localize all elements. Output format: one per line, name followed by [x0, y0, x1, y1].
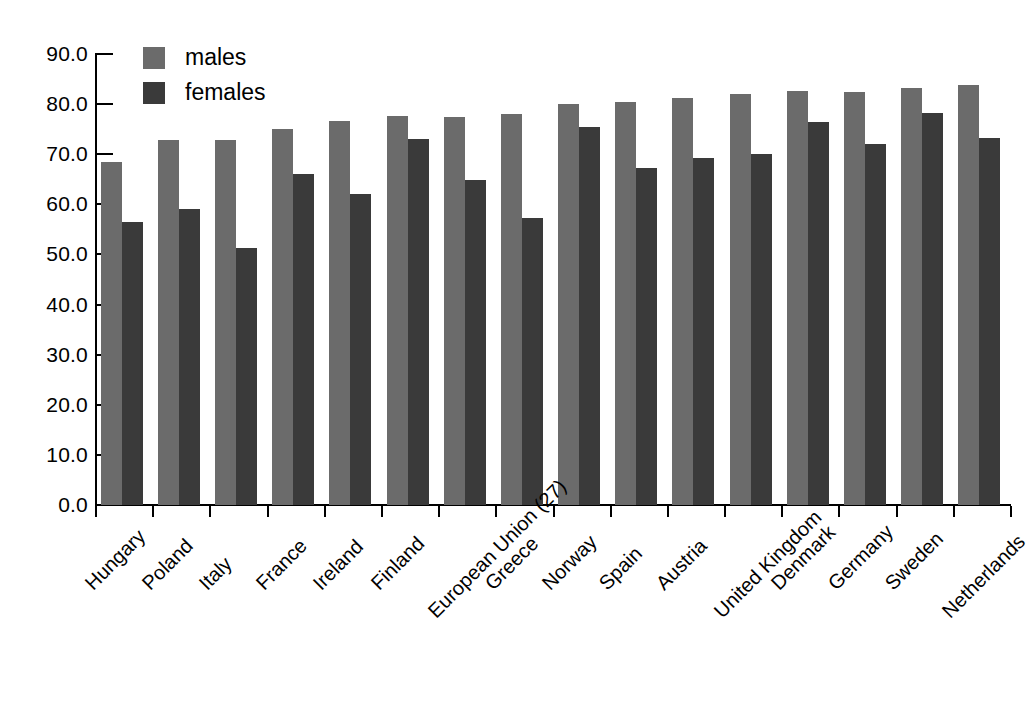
bar-females-united-kingdom	[751, 154, 772, 505]
x-axis-label-italy: Italy	[194, 553, 235, 594]
x-axis-label-hungary: Hungary	[80, 525, 149, 594]
x-axis-label-spain: Spain	[595, 542, 647, 594]
legend-label-females: females	[185, 81, 266, 104]
x-axis-tick	[1010, 506, 1012, 517]
x-axis-tick	[152, 506, 154, 517]
y-axis-tick-label: 0.0	[58, 494, 88, 515]
x-axis-label-austria: Austria	[652, 534, 712, 594]
x-axis-tick	[95, 506, 97, 517]
bars-container	[95, 54, 1010, 505]
x-axis-tick	[610, 506, 612, 517]
bar-females-greece	[522, 218, 543, 505]
bar-females-sweden	[922, 113, 943, 505]
x-axis-label-norway: Norway	[538, 531, 601, 594]
legend-item-males: males	[143, 40, 266, 75]
bar-females-netherlands	[979, 138, 1000, 505]
legend-label-males: males	[185, 46, 246, 69]
bar-males-united-kingdom	[730, 94, 751, 505]
x-axis-tick	[495, 506, 497, 517]
bar-males-austria	[672, 98, 693, 505]
bar-females-ireland	[350, 194, 371, 505]
y-axis-tick-label: 10.0	[46, 444, 88, 465]
bar-females-european-union-27	[465, 180, 486, 505]
chart-legend: malesfemales	[143, 40, 266, 110]
x-axis-tick	[667, 506, 669, 517]
bar-males-finland	[387, 116, 408, 505]
bar-females-france	[293, 174, 314, 505]
x-axis-tick	[781, 506, 783, 517]
legend-swatch-females	[143, 82, 165, 104]
bar-males-france	[272, 129, 293, 505]
bar-females-spain	[636, 168, 657, 505]
bar-females-norway	[579, 127, 600, 505]
bar-males-germany	[844, 92, 865, 505]
bar-males-ireland	[329, 121, 350, 505]
y-axis-tick-label: 20.0	[46, 394, 88, 415]
bar-males-norway	[558, 104, 579, 505]
x-axis-tick	[838, 506, 840, 517]
bar-females-italy	[236, 248, 257, 505]
bar-males-netherlands	[958, 85, 979, 505]
x-axis-tick	[324, 506, 326, 517]
legend-item-females: females	[143, 75, 266, 110]
y-axis-tick-label: 50.0	[46, 243, 88, 264]
bar-males-european-union-27	[444, 117, 465, 505]
y-axis-tick-label: 30.0	[46, 344, 88, 365]
x-axis-tick	[381, 506, 383, 517]
x-axis-tick	[267, 506, 269, 517]
x-axis-tick	[896, 506, 898, 517]
bar-males-poland	[158, 140, 179, 505]
bar-males-denmark	[787, 91, 808, 505]
x-axis-tick	[953, 506, 955, 517]
y-axis-tick-label: 80.0	[46, 93, 88, 114]
y-axis-tick-label: 90.0	[46, 43, 88, 64]
y-axis-tick-label: 60.0	[46, 193, 88, 214]
x-axis-tick	[209, 506, 211, 517]
bar-females-germany	[865, 144, 886, 505]
bar-males-sweden	[901, 88, 922, 505]
y-axis-tick-label: 70.0	[46, 143, 88, 164]
x-axis-tick	[438, 506, 440, 517]
y-axis-labels: 90.080.070.060.050.040.030.020.010.00.0	[0, 0, 88, 709]
x-axis-label-ireland: Ireland	[309, 535, 368, 594]
bar-males-greece	[501, 114, 522, 505]
x-axis-tick	[724, 506, 726, 517]
bar-females-finland	[408, 139, 429, 505]
x-axis-label-netherlands: Netherlands	[938, 530, 1030, 622]
bar-males-italy	[215, 140, 236, 505]
bar-females-denmark	[808, 122, 829, 505]
bar-males-spain	[615, 102, 636, 505]
x-axis-label-finland: Finland	[366, 532, 428, 594]
bar-females-hungary	[122, 222, 143, 505]
x-axis-label-france: France	[252, 534, 312, 594]
y-axis-tick-label: 40.0	[46, 294, 88, 315]
legend-swatch-males	[143, 47, 165, 69]
bar-females-poland	[179, 209, 200, 505]
bar-males-hungary	[101, 162, 122, 505]
bar-females-austria	[693, 158, 714, 505]
bar-chart: 90.080.070.060.050.040.030.020.010.00.0 …	[0, 0, 1033, 709]
